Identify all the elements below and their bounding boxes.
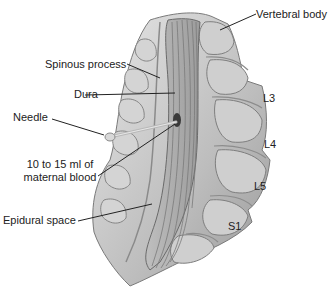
needle-hub bbox=[105, 133, 115, 141]
label-vertebral-body: Vertebral body bbox=[256, 8, 327, 21]
label-dura: Dura bbox=[74, 88, 98, 101]
label-s1: S1 bbox=[228, 220, 241, 233]
label-epidural-space: Epidural space bbox=[3, 214, 76, 227]
label-l4: L4 bbox=[264, 138, 276, 151]
label-maternal-blood-line2: maternal blood bbox=[20, 171, 100, 184]
label-spinous-process: Spinous process bbox=[45, 58, 126, 71]
epidural-blood-patch-diagram: Vertebral body Spinous process Dura Need… bbox=[0, 0, 328, 288]
label-maternal-blood: 10 to 15 ml of maternal blood bbox=[20, 158, 100, 184]
label-l5: L5 bbox=[254, 180, 266, 193]
label-maternal-blood-line1: 10 to 15 ml of bbox=[20, 158, 100, 171]
label-needle: Needle bbox=[13, 111, 48, 124]
label-l3: L3 bbox=[263, 92, 275, 105]
spine-illustration bbox=[0, 0, 328, 288]
